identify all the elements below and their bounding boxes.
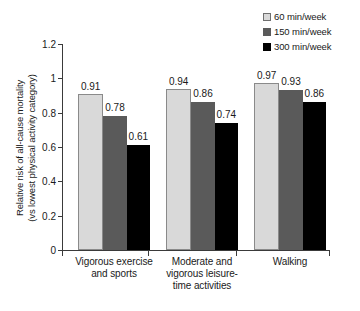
y-axis-tick-label: 1 xyxy=(0,73,56,84)
bar-group: 0.970.930.86 xyxy=(254,44,326,250)
bar: 0.61 xyxy=(127,145,150,250)
y-axis-tick xyxy=(58,181,62,182)
legend-swatch-icon-60-min-week xyxy=(263,13,271,21)
bar-group: 0.940.860.74 xyxy=(166,44,238,250)
y-axis-tick-label: 1.2 xyxy=(0,39,56,50)
bar-value-label: 0.86 xyxy=(193,88,212,99)
bar: 0.91 xyxy=(78,94,103,250)
y-axis-tick xyxy=(58,78,62,79)
bar: 0.74 xyxy=(215,123,238,250)
legend-label-60-min-week: 60 min/week xyxy=(274,12,326,22)
y-axis-tick xyxy=(58,147,62,148)
y-axis-line xyxy=(62,44,63,250)
plot-area: 0.910.780.610.940.860.740.970.930.86 xyxy=(62,44,330,250)
bar: 0.86 xyxy=(191,102,214,250)
x-axis-category-label-line: vigorous leisure- xyxy=(142,268,262,280)
bar-group: 0.910.780.61 xyxy=(78,44,150,250)
bar-value-label: 0.91 xyxy=(81,81,100,92)
bar: 0.86 xyxy=(303,102,326,250)
bar-chart-figure: 60 min/week 150 min/week 300 min/week Re… xyxy=(0,0,360,311)
legend-swatch-icon-150-min-week xyxy=(263,28,271,36)
bar: 0.93 xyxy=(279,90,302,250)
bar: 0.94 xyxy=(166,89,191,250)
bar-value-label: 0.61 xyxy=(129,131,148,142)
legend-label-150-min-week: 150 min/week xyxy=(274,27,331,37)
bar-value-label: 0.78 xyxy=(105,102,124,113)
bar: 0.97 xyxy=(254,83,279,250)
x-axis-line xyxy=(62,250,330,251)
y-axis-tick xyxy=(58,113,62,114)
x-axis-category-label: Walking xyxy=(230,256,350,268)
y-axis-tick-label: 0.2 xyxy=(0,210,56,221)
bar-value-label: 0.86 xyxy=(305,88,324,99)
y-axis-tick xyxy=(58,216,62,217)
y-axis-tick-label: 0.4 xyxy=(0,176,56,187)
bar-value-label: 0.94 xyxy=(169,76,188,87)
bar-value-label: 0.97 xyxy=(257,70,276,81)
y-axis-tick-label: 0.6 xyxy=(0,142,56,153)
x-axis-category-label-line: time activities xyxy=(142,280,262,292)
y-axis-tick xyxy=(58,44,62,45)
bar-value-label: 0.93 xyxy=(281,76,300,87)
x-axis-category-label-line: Walking xyxy=(230,256,350,268)
bar-value-label: 0.74 xyxy=(217,109,236,120)
y-axis-tick-label: 0 xyxy=(0,245,56,256)
bar: 0.78 xyxy=(103,116,126,250)
legend-item-150-min-week: 150 min/week xyxy=(263,24,360,39)
legend-item-60-min-week: 60 min/week xyxy=(263,9,360,24)
y-axis-tick-label: 0.8 xyxy=(0,107,56,118)
